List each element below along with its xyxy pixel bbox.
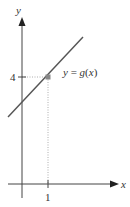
curve-label-close: ) [94, 66, 98, 79]
y-axis-arrow-icon [19, 17, 26, 26]
x-axis-arrow-icon [110, 181, 119, 188]
graph: y x 4 1 y = g(x) [0, 0, 130, 207]
x-axis-label: x [120, 178, 126, 190]
point-1-4 [46, 75, 51, 80]
x-tick-label-1: 1 [45, 191, 51, 203]
curve-label-eq: = [68, 66, 80, 78]
curve-label: y = g(x) [62, 66, 98, 79]
y-tick-label-4: 4 [10, 71, 16, 83]
y-axis-label: y [15, 4, 21, 16]
